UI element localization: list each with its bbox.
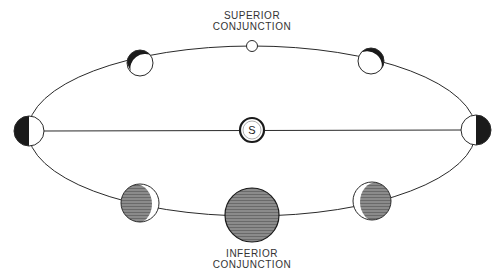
orbit-diagram: S bbox=[0, 0, 503, 277]
planet-superior-conjunction bbox=[247, 41, 258, 52]
planet-half-right bbox=[461, 115, 491, 145]
superior-conjunction-label: SUPERIOR CONJUNCTION bbox=[202, 10, 302, 32]
planet-gibbous-upper-left bbox=[127, 46, 156, 79]
planet-crescent-lower-right bbox=[353, 182, 394, 222]
superior-label-line1: SUPERIOR bbox=[202, 10, 302, 21]
superior-label-line2: CONJUNCTION bbox=[202, 21, 302, 32]
planet-crescent-lower-left bbox=[118, 184, 159, 224]
inferior-label-line1: INFERIOR bbox=[202, 248, 302, 259]
planet-inferior-conjunction bbox=[225, 188, 279, 242]
sun-label: S bbox=[248, 124, 255, 136]
planet-half-left bbox=[14, 116, 44, 146]
planet-gibbous-upper-right bbox=[358, 44, 384, 74]
inferior-conjunction-label: INFERIOR CONJUNCTION bbox=[202, 248, 302, 270]
inferior-label-line2: CONJUNCTION bbox=[202, 259, 302, 270]
